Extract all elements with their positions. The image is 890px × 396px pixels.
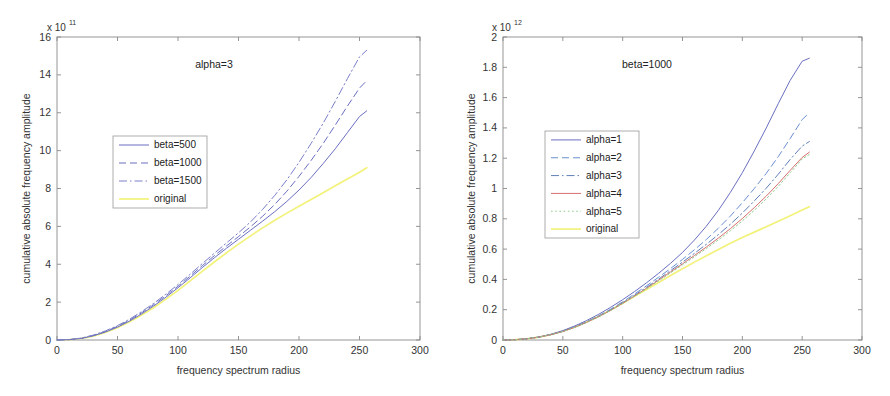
svg-text:x 10: x 10	[492, 22, 511, 33]
legend-label: beta=500	[154, 139, 196, 150]
y-tick-label: 1.6	[482, 91, 497, 103]
x-tick-label: 50	[557, 344, 569, 356]
plot-frame	[57, 37, 420, 340]
chart-svg-right: 05010015020025030000.20.40.60.811.21.41.…	[445, 0, 890, 396]
x-tick-label: 0	[500, 344, 506, 356]
y-tick-label: 0	[491, 334, 497, 346]
x-axis-title: frequency spectrum radius	[177, 364, 301, 376]
y-tick-label: 0.2	[482, 303, 497, 315]
x-tick-label: 300	[853, 344, 871, 356]
x-tick-label: 100	[614, 344, 632, 356]
legend-label: beta=1000	[154, 157, 202, 168]
x-tick-label: 300	[411, 344, 429, 356]
chart-svg-left: 0501001502002503000246810121416x 1011fre…	[0, 0, 445, 396]
legend-label: original	[586, 223, 618, 234]
x-tick-label: 150	[674, 344, 692, 356]
y-tick-label: 12	[39, 106, 51, 118]
series-curve-beta-1000	[57, 81, 367, 340]
x-tick-label: 200	[290, 344, 308, 356]
x-tick-label: 50	[112, 344, 124, 356]
legend-label: alpha=4	[586, 188, 622, 199]
x-axis-title: frequency spectrum radius	[621, 364, 745, 376]
y-tick-label: 0.6	[482, 243, 497, 255]
legend-label: alpha=3	[586, 170, 622, 181]
legend[interactable]: alpha=1alpha=2alpha=3alpha=4alpha=5origi…	[545, 131, 639, 238]
y-tick-label: 0.4	[482, 273, 497, 285]
y-tick-label: 1	[491, 182, 497, 194]
svg-text:12: 12	[514, 19, 522, 26]
y-axis-title: cumulative absolute frequency amplitude	[20, 93, 32, 283]
x-tick-label: 250	[351, 344, 369, 356]
legend-box	[545, 131, 639, 238]
y-tick-label: 6	[45, 220, 51, 232]
legend-label: alpha=1	[586, 134, 622, 145]
legend-label: original	[154, 193, 186, 204]
y-tick-label: 2	[45, 296, 51, 308]
y-axis-title: cumulative absolute frequency amplitude	[465, 93, 477, 283]
svg-text:11: 11	[69, 19, 76, 26]
chart-panel-left: 0501001502002503000246810121416x 1011fre…	[0, 0, 445, 396]
series-curve-original	[57, 168, 367, 340]
legend[interactable]: beta=500beta=1000beta=1500original	[113, 136, 207, 208]
y-tick-label: 14	[39, 68, 51, 80]
y-tick-label: 0	[45, 334, 51, 346]
x-tick-label: 250	[793, 344, 811, 356]
y-tick-label: 0.8	[482, 212, 497, 224]
figure-container: 0501001502002503000246810121416x 1011fre…	[0, 0, 890, 396]
y-tick-label: 10	[39, 144, 51, 156]
legend-label: beta=1500	[154, 175, 202, 186]
chart-panel-right: 05010015020025030000.20.40.60.811.21.41.…	[445, 0, 890, 396]
y-axis-exponent: x 1012	[492, 19, 522, 33]
x-tick-label: 0	[54, 344, 60, 356]
y-tick-label: 8	[45, 182, 51, 194]
plot-annotation: beta=1000	[622, 58, 672, 70]
y-tick-label: 1.2	[482, 152, 497, 164]
legend-label: alpha=5	[586, 206, 622, 217]
y-tick-label: 4	[45, 258, 51, 270]
x-tick-label: 100	[169, 344, 187, 356]
y-axis-exponent: x 1011	[47, 19, 76, 33]
x-tick-label: 200	[734, 344, 752, 356]
legend-label: alpha=2	[586, 152, 622, 163]
svg-text:x 10: x 10	[47, 22, 66, 33]
y-tick-label: 1.4	[482, 121, 497, 133]
y-tick-label: 1.8	[482, 61, 497, 73]
x-tick-label: 150	[230, 344, 248, 356]
plot-annotation: alpha=3	[195, 58, 233, 70]
series-curve-beta-500	[57, 111, 367, 340]
